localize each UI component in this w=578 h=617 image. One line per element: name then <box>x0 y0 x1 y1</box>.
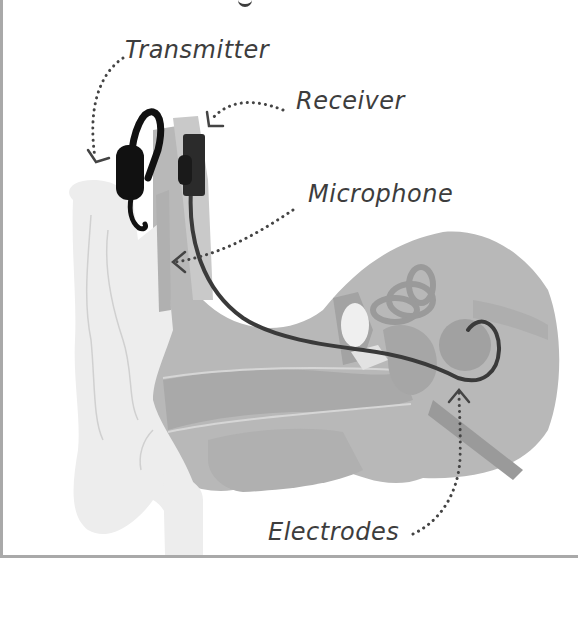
diagram-frame: Transmitter Receiver Microphone Electrod… <box>0 0 578 558</box>
label-electrodes: Electrodes <box>268 518 399 546</box>
lower-tissue <box>208 429 363 492</box>
ear-illustration <box>3 0 578 558</box>
transmitter-arrow <box>93 58 123 158</box>
label-transmitter: Transmitter <box>125 36 269 64</box>
label-microphone: Microphone <box>308 180 453 208</box>
label-receiver: Receiver <box>296 87 405 115</box>
receiver-arrow <box>211 103 283 120</box>
